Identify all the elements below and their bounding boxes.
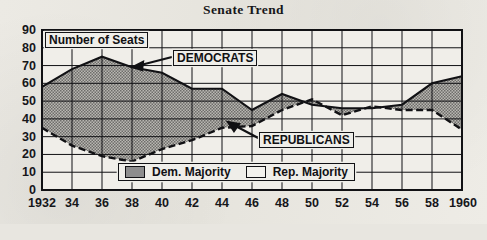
- x-tick-46: 46: [237, 196, 267, 210]
- legend-label-rep: Rep. Majority: [273, 165, 348, 179]
- y-tick-50: 50: [6, 94, 36, 108]
- x-tick-54: 54: [357, 196, 387, 210]
- y-tick-10: 10: [6, 165, 36, 179]
- x-tick-40: 40: [147, 196, 177, 210]
- republicans-annotation: REPUBLICANS: [259, 132, 354, 148]
- y-tick-70: 70: [6, 59, 36, 73]
- y-tick-40: 40: [6, 112, 36, 126]
- x-tick-56: 56: [387, 196, 417, 210]
- legend-swatch-dem: [125, 166, 145, 178]
- x-tick-48: 48: [267, 196, 297, 210]
- x-tick-34: 34: [57, 196, 87, 210]
- y-tick-0: 0: [6, 183, 36, 197]
- x-tick-36: 36: [87, 196, 117, 210]
- y-tick-30: 30: [6, 130, 36, 144]
- y-tick-20: 20: [6, 147, 36, 161]
- chart-legend: Dem. Majority Rep. Majority: [118, 163, 355, 181]
- y-tick-80: 80: [6, 41, 36, 55]
- democrats-annotation: DEMOCRATS: [173, 50, 257, 66]
- legend-label-dem: Dem. Majority: [152, 165, 231, 179]
- x-tick-1960: 1960: [441, 196, 485, 210]
- x-tick-50: 50: [297, 196, 327, 210]
- x-tick-38: 38: [117, 196, 147, 210]
- x-tick-42: 42: [177, 196, 207, 210]
- x-tick-44: 44: [207, 196, 237, 210]
- x-tick-52: 52: [327, 196, 357, 210]
- axis-note-label: Number of Seats: [45, 32, 148, 48]
- legend-swatch-rep: [246, 166, 266, 178]
- x-tick-1932: 1932: [22, 196, 62, 210]
- y-tick-60: 60: [6, 76, 36, 90]
- y-tick-90: 90: [6, 23, 36, 37]
